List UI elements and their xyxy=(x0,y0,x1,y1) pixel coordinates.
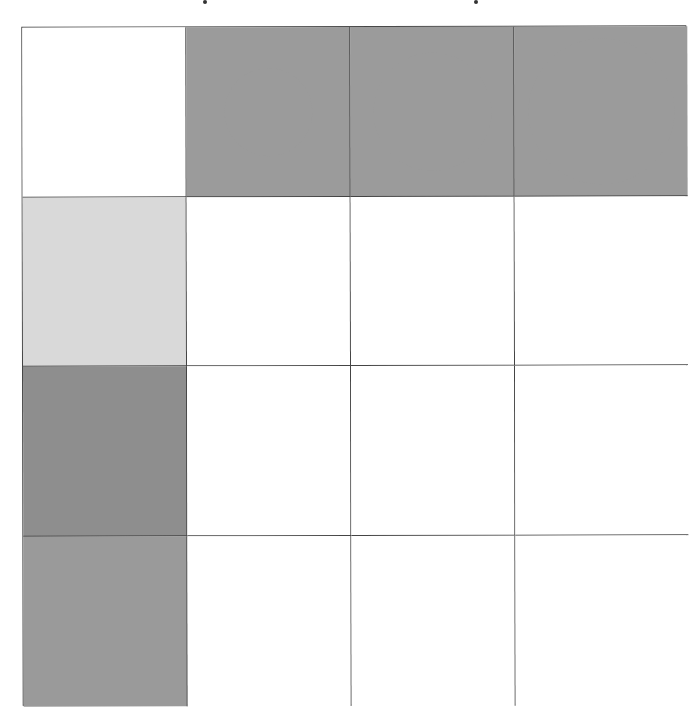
grid-cell-r1-c3 xyxy=(350,27,514,197)
grid-cell-r3-c4 xyxy=(515,365,688,535)
grid-cell-r4-c3 xyxy=(351,536,515,706)
grid-cell-r2-c4 xyxy=(515,196,688,365)
cropped-text-fragments xyxy=(0,0,698,8)
grid-cell-r1-c1 xyxy=(22,27,186,197)
circle-medium xyxy=(373,52,491,170)
grid-cell-r2-c3 xyxy=(351,197,515,366)
text-fragment-dot xyxy=(474,0,478,4)
grid-cell-r3-c3 xyxy=(351,366,515,536)
text-fragment-dot xyxy=(203,0,207,4)
circle-large xyxy=(528,38,674,184)
grid-cell-r1-c2 xyxy=(186,27,350,197)
grid-cell-r4-c4 xyxy=(515,535,688,705)
grid-cell-r1-c4 xyxy=(514,26,687,196)
grid-cell-r4-c2 xyxy=(187,536,351,706)
grid-cell-r2-c1 xyxy=(23,197,187,366)
grid-cell-r3-c2 xyxy=(187,366,351,536)
matrix-grid xyxy=(21,25,687,705)
grid-cell-r2-c2 xyxy=(187,197,351,366)
circle-small xyxy=(224,68,312,156)
grid-cell-r4-c1 xyxy=(23,536,187,706)
grid-cell-r3-c1 xyxy=(23,366,187,536)
puzzle-figure xyxy=(0,0,698,725)
